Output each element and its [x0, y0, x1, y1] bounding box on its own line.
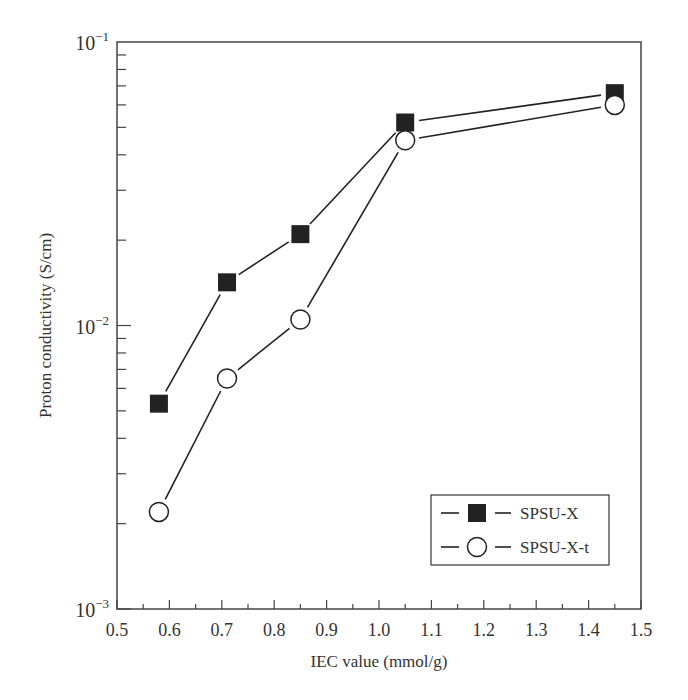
circle-marker: [396, 131, 415, 150]
legend-square-icon: [468, 504, 486, 522]
x-tick-label: 1.2: [473, 620, 496, 640]
series-line-spsu-x-t: [165, 391, 220, 499]
x-tick-label: 1.5: [630, 620, 653, 640]
x-tick-label: 1.4: [577, 620, 600, 640]
y-tick-label: 10−2: [75, 313, 109, 338]
x-tick-label: 0.7: [211, 620, 234, 640]
series-line-spsu-x-t: [419, 107, 601, 138]
square-marker: [396, 114, 414, 132]
x-tick-label: 1.3: [525, 620, 548, 640]
square-marker: [218, 273, 236, 291]
series-line-spsu-x-t: [238, 328, 290, 369]
legend-label: SPSU-X-t: [520, 538, 589, 557]
legend-label: SPSU-X: [520, 504, 579, 523]
y-tick-label: 10−1: [75, 29, 109, 54]
series-line-spsu-x: [419, 95, 601, 120]
x-axis-label: IEC value (mmol/g): [311, 652, 448, 671]
chart-canvas: 0.50.60.70.80.91.01.11.21.31.41.510−110−…: [0, 0, 688, 700]
x-tick-label: 0.8: [263, 620, 286, 640]
x-tick-label: 1.0: [368, 620, 391, 640]
x-tick-label: 1.1: [420, 620, 443, 640]
circle-marker: [291, 310, 310, 329]
square-marker: [150, 395, 168, 413]
circle-marker: [605, 95, 624, 114]
series-line-spsu-x: [239, 242, 289, 275]
y-axis-label: Proton conductivity (S/cm): [36, 233, 55, 418]
series-line-spsu-x: [166, 295, 220, 392]
square-marker: [291, 225, 309, 243]
legend-circle-icon: [468, 538, 487, 557]
circle-marker: [149, 502, 168, 521]
x-tick-label: 0.6: [158, 620, 181, 640]
series-line-spsu-x-t: [307, 152, 398, 307]
x-tick-label: 0.5: [106, 620, 129, 640]
chart-figure: 0.50.60.70.80.91.01.11.21.31.41.510−110−…: [0, 0, 688, 700]
circle-marker: [218, 369, 237, 388]
y-tick-label: 10−3: [75, 596, 109, 621]
x-tick-label: 0.9: [315, 620, 338, 640]
